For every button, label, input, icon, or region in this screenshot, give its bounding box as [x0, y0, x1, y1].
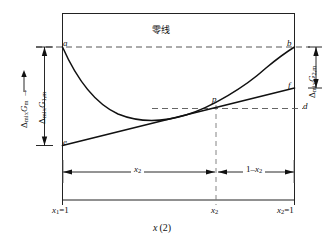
- mix-subscript-gm: mix: [22, 112, 29, 122]
- delta-mix-g2m-label: ΔmixG2,m: [308, 66, 318, 98]
- left-dim-inner-arrow-bottom: [42, 137, 47, 146]
- point-label-e: e: [63, 138, 67, 147]
- two-m-subscript-g2m: 2,m: [310, 66, 317, 76]
- delta-mix-gm-label: ΔmixGm→: [20, 89, 30, 128]
- right-dim-arrow-top: [313, 47, 318, 56]
- point-label-f: f: [288, 81, 291, 90]
- dim-one-minus-prefix: 1–: [246, 164, 255, 174]
- x-axis-title-base: x: [153, 222, 157, 233]
- tick-right-eq: =1: [284, 205, 294, 215]
- delta-symbol-g2m: Δ: [307, 92, 317, 98]
- point-label-b: b: [287, 39, 292, 48]
- g-symbol-gm: G: [19, 106, 29, 113]
- left-dim-inner-arrow-top: [42, 47, 47, 56]
- axis-tick-label-left: x1=1: [52, 206, 69, 216]
- dim-x2-sub: 2: [138, 167, 141, 174]
- axis-tick-label-right: x2=1: [277, 206, 294, 216]
- tick-left-eq: =1: [59, 205, 69, 215]
- right-arrow-icon: →: [19, 89, 29, 98]
- dimension-label-x2-left: x2: [131, 165, 144, 175]
- left-dim-outer-arrowhead: [21, 70, 26, 77]
- mix-subscript-g1m: mix: [40, 108, 47, 118]
- g-symbol-g2m: G: [307, 76, 317, 83]
- dimension-label-one-minus-x2: 1–x2: [243, 165, 265, 175]
- diagram-canvas: [0, 0, 326, 240]
- zero-line-label: 零线: [152, 26, 170, 35]
- dim-left-arrow-start: [63, 169, 72, 174]
- delta-symbol-gm: Δ: [19, 122, 29, 128]
- dim-right-arrow-end: [285, 169, 294, 174]
- figure-container: 零线 a b e f p d ΔmixGm→ ΔmixG1,m ΔmixG2,m…: [0, 0, 326, 240]
- gibbs-mixing-curve: [63, 47, 295, 121]
- mix-subscript-g2m: mix: [310, 82, 317, 92]
- x-axis-title: x(2): [153, 223, 171, 233]
- delta-symbol-g1m: Δ: [37, 118, 47, 124]
- dim-one-minus-sub: 2: [259, 167, 262, 174]
- tick-mid-sub: 2: [215, 208, 218, 215]
- dim-left-arrow-end: [206, 169, 215, 174]
- point-label-a: a: [63, 39, 68, 48]
- x-axis-title-paren: (2): [159, 222, 171, 233]
- axis-tick-label-middle: x2: [211, 206, 218, 216]
- tangent-line-ef: [63, 88, 295, 146]
- delta-mix-g1m-label: ΔmixG1,m: [38, 92, 48, 124]
- dim-right-arrow-start: [218, 169, 227, 174]
- point-label-d: d: [303, 102, 308, 111]
- point-label-p: p: [212, 95, 217, 104]
- g-symbol-g1m: G: [37, 102, 47, 109]
- one-m-subscript-g1m: 1,m: [40, 92, 47, 102]
- m-subscript-gm: m: [22, 101, 29, 106]
